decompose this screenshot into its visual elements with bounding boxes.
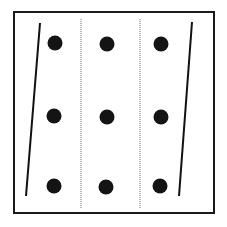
dot-r2-c3 [154,110,169,125]
dot-r3-c3 [153,179,168,194]
dot-r3-c2 [99,180,114,195]
dot-r1-c2 [100,37,115,52]
figure-container [0,0,227,227]
dot-r2-c2 [100,110,115,125]
dot-r2-c1 [47,109,62,124]
dot-r1-c3 [154,37,169,52]
dot-r3-c1 [47,179,62,194]
figure-canvas [0,0,227,227]
dot-r1-c1 [48,36,63,51]
